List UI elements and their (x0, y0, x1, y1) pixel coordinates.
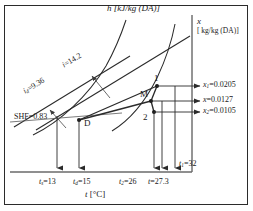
temperature-axis-units: [°C] (90, 189, 106, 199)
t2-label: t2=26 (119, 178, 136, 186)
enthalpy-axis-title: h [kJ/kg (DA)] (107, 4, 160, 13)
x2-label: x2=0.0105 (203, 107, 236, 115)
x1-label: x1=0.0205 (203, 81, 236, 89)
point-M-label: M (140, 90, 148, 99)
point-D-label: D (84, 119, 91, 128)
ts-label: ts=13 (39, 178, 56, 186)
temperature-axis-symbol: t (85, 189, 88, 199)
temperature-axis-title: t [°C] (85, 190, 105, 199)
x1-value: =0.0205 (209, 80, 236, 89)
temperature-drop-lines (57, 86, 175, 168)
ts-value: =13 (43, 177, 56, 186)
tm-value: =27.3 (150, 177, 169, 186)
td-value: =15 (78, 177, 91, 186)
point-1-label: 1 (154, 74, 159, 83)
x-label: x=0.0127 (203, 96, 233, 104)
td-label: td=15 (73, 178, 90, 186)
x-value: =0.0127 (207, 95, 234, 104)
shf-label: SHF=0.83 (14, 113, 47, 121)
x2-value: =0.0105 (209, 106, 236, 115)
humidity-axis-symbol: x (197, 17, 201, 26)
t1-value: =32 (184, 159, 197, 168)
t1-label: t1=32 (179, 160, 196, 168)
point-2-label: 2 (143, 113, 148, 122)
humidity-axis-units: [ kg/kg (DA)] (197, 27, 239, 35)
enthalpy-line-i (36, 36, 190, 130)
t2-value: =26 (124, 177, 137, 186)
tm-label: t=27.3 (148, 178, 169, 186)
psychrometric-chart: h [kJ/kg (DA)] x [ kg/kg (DA)] id=9.36 i… (0, 0, 253, 211)
